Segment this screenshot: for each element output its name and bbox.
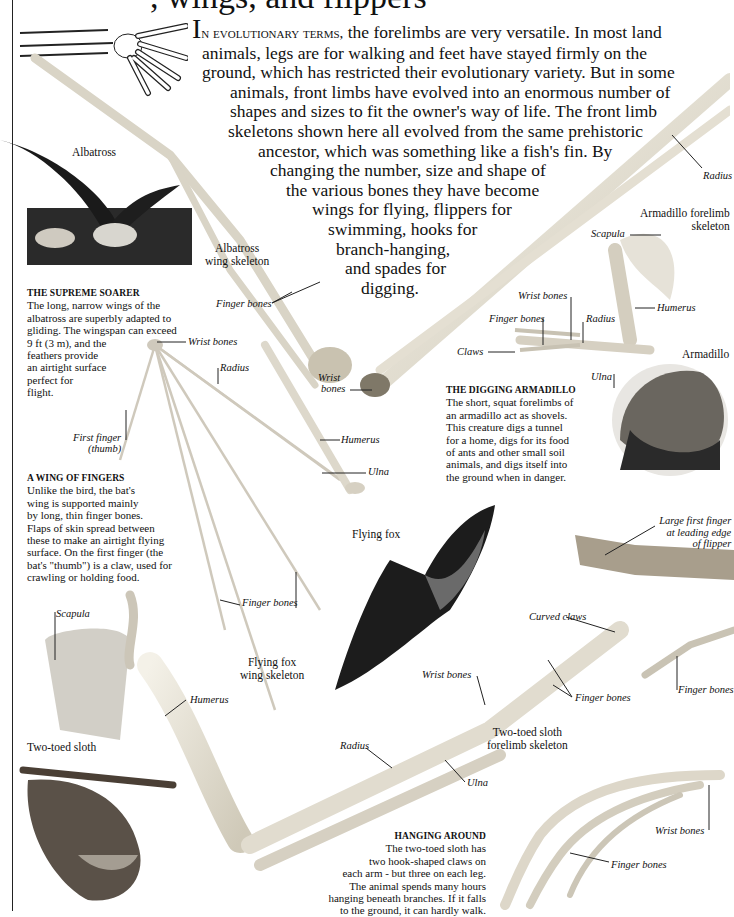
leader-lines — [0, 0, 734, 911]
